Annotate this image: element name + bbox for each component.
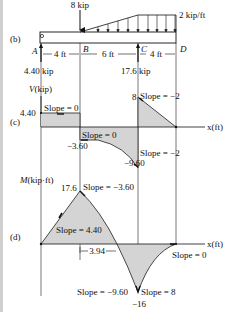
shear-value-c-right: 8	[132, 92, 137, 102]
moment-panel: M(kip·ft) x(ft) 3.94 (d) 17.6 S	[10, 175, 223, 309]
distributed-load-label: 2 kip/ft	[179, 10, 206, 20]
shear-slope-c-left: Slope = −2	[140, 148, 180, 158]
moment-x-label: x(ft)	[207, 239, 223, 249]
diagram-frame: 8 kip 2 kip/ft (b)	[0, 0, 231, 312]
moment-axis-label: M(kip·ft)	[19, 175, 54, 185]
beam	[40, 32, 176, 43]
reaction-a-label: 4.40 kip	[24, 66, 54, 76]
span-bc-label: 6 ft	[102, 49, 115, 59]
moment-area-negative	[117, 244, 176, 292]
moment-slope-c-right: Slope = 8	[141, 287, 176, 297]
point-load-label: 8 kip	[71, 0, 90, 10]
moment-value-c: −16	[132, 299, 147, 309]
reaction-c-arrowhead-icon	[136, 43, 140, 48]
shear-start-point	[40, 112, 42, 114]
shear-value-c-left: −9.60	[124, 158, 145, 168]
moment-zero-cross-label: 3.94	[89, 246, 105, 256]
panel-label-d: (d)	[10, 232, 21, 242]
shear-panel: V(kip) x(ft) (c) 4.40 Slope = 0 Slope =	[10, 84, 223, 168]
panel-label-b: (b)	[10, 34, 21, 44]
moment-value-b: 17.6	[61, 183, 77, 193]
moment-start-point	[40, 243, 42, 245]
shear-slope-ab: Slope = 0	[44, 103, 79, 113]
shear-area-ab	[41, 113, 80, 127]
shear-slope-c-right: Slope = −2	[140, 91, 180, 101]
moment-slope-c-left: Slope = −9.60	[77, 287, 128, 297]
point-label-d: D	[179, 44, 187, 54]
moment-slope-a: Slope = 4.40	[56, 225, 102, 235]
span-ab-label: 4 ft	[54, 49, 67, 59]
moment-slope-d: Slope = 0	[172, 250, 207, 260]
shear-zero-point	[175, 126, 177, 128]
shear-x-label: x(ft)	[207, 122, 223, 132]
shear-value-a: 4.40	[20, 108, 36, 118]
beam-diagram-svg: 8 kip 2 kip/ft (b)	[0, 0, 231, 312]
reaction-a-arrowhead-icon	[39, 43, 43, 48]
point-label-a: A	[31, 46, 38, 56]
reaction-c-label: 17.6 kip	[121, 66, 151, 76]
panel-label-c: (c)	[10, 117, 20, 127]
shear-axis-label: V(kip)	[29, 84, 52, 94]
span-cd-label: 4 ft	[150, 49, 163, 59]
shear-slope-b: Slope = 0	[82, 130, 117, 140]
point-label-b: B	[83, 44, 89, 54]
moment-area-positive	[41, 191, 117, 244]
shear-value-b: −3.60	[67, 141, 88, 151]
point-label-c: C	[141, 44, 148, 54]
moment-slope-b: Slope = −3.60	[83, 182, 134, 192]
